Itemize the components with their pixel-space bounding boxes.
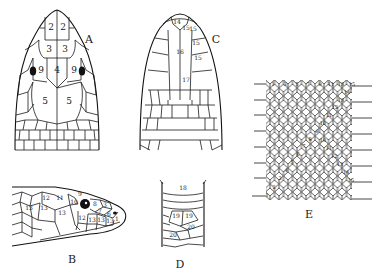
scale-label: 9 — [71, 65, 77, 75]
scale-label: 20 — [169, 231, 177, 238]
scale-label: 3 — [103, 201, 107, 208]
scale-label: 9 — [315, 128, 318, 134]
scale-label: 10 — [320, 137, 326, 143]
scale-label: 1 — [271, 81, 274, 87]
scale-label: 12 — [42, 194, 50, 201]
scale-label: 12 — [78, 214, 86, 221]
scale-label: 17 — [182, 76, 190, 83]
panel-c-ventral-head: 14 15 15 15 16 15 17 C — [140, 14, 222, 150]
scale-label: 11 — [326, 145, 332, 151]
scale-label: 5 — [295, 81, 298, 87]
scale-label: 7 — [98, 207, 102, 214]
scale-label: 4 — [284, 167, 287, 173]
scale-label: 19 — [172, 212, 180, 219]
scale-label: 7 — [306, 81, 309, 87]
scale-label: 13 — [97, 216, 105, 223]
scale-label: 2 — [272, 184, 275, 190]
scale-label: 14 — [344, 89, 350, 95]
scale-label: 19 — [185, 212, 193, 219]
scale-label: 13 — [25, 204, 33, 211]
scale-label: 3 — [46, 44, 52, 54]
scale-label: 16 — [176, 48, 184, 55]
scale-label: 13 — [106, 217, 114, 224]
scale-label: 2 — [48, 22, 54, 32]
panel-label-c: C — [212, 33, 220, 46]
panel-label-b: B — [68, 253, 76, 266]
scale-label: 8 — [93, 200, 97, 207]
scale-label: 2 — [60, 22, 66, 32]
scale-label: 13 — [40, 204, 48, 211]
scale-label: 15 — [189, 25, 197, 32]
scale-label: 15 — [192, 39, 200, 46]
panel-label-e: E — [305, 208, 313, 221]
panel-a-dorsal-head: 2 2 3 3 9 4 9 5 5 A — [15, 10, 99, 150]
scale-label: 14 — [173, 18, 181, 25]
scale-label: 8 — [308, 136, 311, 142]
scale-label: 9 — [38, 65, 44, 75]
scale-label: 7 — [302, 143, 305, 149]
scale-label: 20 — [187, 223, 195, 230]
scale-label: 10 — [320, 120, 326, 126]
scale-label: 12 — [332, 104, 338, 110]
scale-label: 10 — [70, 198, 78, 205]
scale-label: 15 — [348, 177, 354, 183]
panel-b-lateral-head: 9 12 11 10 8 3 13 13 13 7 6 12 13 13 13 … — [12, 187, 126, 266]
scale-label: 4 — [54, 65, 60, 75]
scale-label: 3 — [62, 44, 68, 54]
scale-label: 5 — [66, 96, 72, 106]
scale-label: 15 — [349, 81, 355, 87]
scale-label: 13 — [58, 209, 66, 216]
scale-label: 13 — [88, 216, 96, 223]
scale-label: 11 — [56, 194, 64, 201]
scale-label: 12 — [331, 153, 337, 159]
scale-label: 6 — [107, 210, 111, 217]
panel-e-dorsal-scale-rows: 1 3 5 7 9 11 13 15 1 2 3 4 5 6 7 8 9 10 … — [252, 80, 372, 221]
panel-label-d: D — [176, 258, 185, 271]
scale-label: 5 — [42, 96, 48, 106]
scale-label: 15 — [194, 54, 202, 61]
scale-label: 3 — [278, 175, 281, 181]
scale-label: 13 — [338, 81, 344, 87]
scale-label: 9 — [78, 190, 82, 197]
snake-scale-diagram: 2 2 3 3 9 4 9 5 5 A 14 15 15 15 16 15 17… — [0, 0, 383, 277]
scale-label: 11 — [326, 112, 332, 118]
scale-label: 13 — [337, 161, 343, 167]
scale-label: 1 — [115, 215, 119, 222]
scale-label: 5 — [290, 159, 293, 165]
scale-label: 6 — [296, 151, 299, 157]
panel-d-ventral-body: 18 19 19 20 20 D — [160, 180, 206, 271]
scale-label: 1 — [265, 192, 268, 198]
scale-label: 3 — [283, 81, 286, 87]
scale-label: 18 — [179, 184, 187, 191]
scale-label: 13 — [338, 97, 344, 103]
panel-label-a: A — [84, 33, 94, 46]
scale-label: 9 — [318, 81, 321, 87]
scale-label: 11 — [328, 81, 334, 87]
scale-label: 14 — [343, 169, 349, 175]
